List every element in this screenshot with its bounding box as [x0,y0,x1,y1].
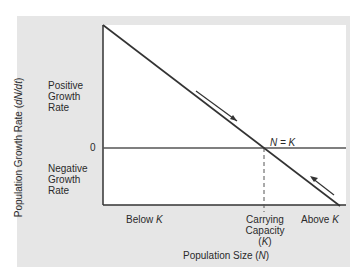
zero-tick: 0 [90,142,96,153]
x-axis-label: Population Size (N) [183,250,269,261]
carrying-capacity-label: CarryingCapacity (K) [243,214,287,247]
diagram-lines [0,0,357,280]
below-k-label: Below K [126,214,163,225]
n-equals-k-label: N = K [270,137,295,148]
above-k-label: Above K [301,214,339,225]
y-axis-label: Population Growth Rate (dN/dt) [13,78,24,218]
negative-growth-label: NegativeGrowthRate [48,163,87,196]
positive-growth-label: PositiveGrowthRate [48,80,83,113]
